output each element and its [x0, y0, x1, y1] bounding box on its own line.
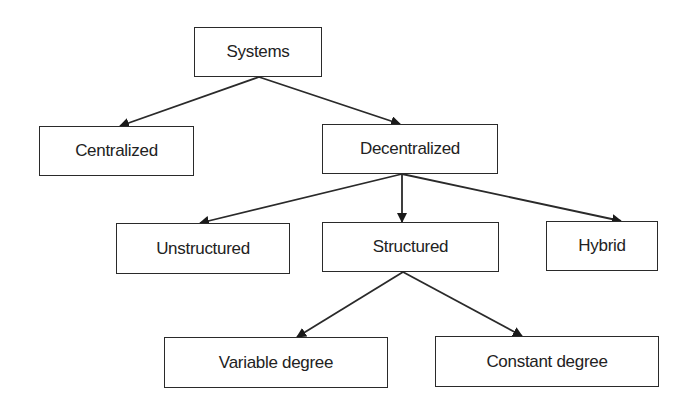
- node-label: Structured: [373, 237, 448, 257]
- node-label: Unstructured: [156, 239, 250, 259]
- node-structured: Structured: [322, 222, 499, 272]
- node-label: Variable degree: [219, 353, 333, 373]
- arrow-systems-to-decentralized: [259, 77, 400, 124]
- arrow-structured-to-variable_degree: [297, 272, 403, 337]
- node-centralized: Centralized: [39, 126, 194, 176]
- node-label: Systems: [226, 42, 289, 62]
- node-unstructured: Unstructured: [116, 223, 290, 274]
- arrow-systems-to-centralized: [120, 77, 259, 126]
- node-constant-degree: Constant degree: [435, 336, 659, 387]
- node-label: Hybrid: [578, 236, 625, 256]
- diagram-canvas: Systems Centralized Decentralized Unstru…: [0, 0, 691, 408]
- node-hybrid: Hybrid: [546, 221, 658, 271]
- arrow-structured-to-constant_degree: [403, 272, 522, 336]
- node-systems: Systems: [194, 27, 322, 77]
- arrow-decentralized-to-unstructured: [200, 174, 402, 223]
- node-label: Constant degree: [486, 352, 607, 372]
- node-variable-degree: Variable degree: [164, 337, 388, 388]
- node-label: Centralized: [75, 141, 158, 161]
- node-decentralized: Decentralized: [322, 124, 498, 174]
- arrow-decentralized-to-hybrid: [402, 174, 621, 221]
- node-label: Decentralized: [360, 139, 460, 159]
